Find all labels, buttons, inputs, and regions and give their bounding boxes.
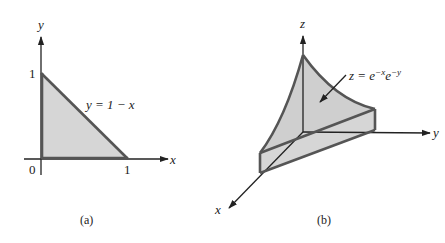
origin-label: 0 bbox=[29, 162, 36, 177]
caption-a: (a) bbox=[80, 213, 93, 227]
y-axis-label: y bbox=[36, 17, 44, 32]
x-axis-label: x bbox=[169, 152, 176, 167]
y-axis-label-3d: y bbox=[431, 125, 439, 140]
surface-label-exp1: −x bbox=[375, 67, 385, 77]
y-tick-1: 1 bbox=[29, 66, 36, 81]
caption-b: (b) bbox=[317, 213, 331, 227]
z-axis-label: z bbox=[299, 16, 305, 31]
panel-a: y x 1 0 1 y = 1 − x (a) bbox=[24, 17, 176, 227]
x-axis-label-3d: x bbox=[214, 202, 221, 217]
x-tick-1: 1 bbox=[124, 162, 131, 177]
surface-label: z = e−xe−y bbox=[348, 67, 401, 83]
panel-b: z y x z = e−xe−y (b) bbox=[214, 16, 439, 227]
surface-label-exp2: −y bbox=[391, 67, 401, 77]
svg-text:z = e−xe−y: z = e−xe−y bbox=[348, 67, 401, 83]
curve-label: y = 1 − x bbox=[84, 97, 135, 112]
figure: y x 1 0 1 y = 1 − x (a) z y x z = bbox=[0, 0, 445, 243]
surface-label-lhs: z = e bbox=[348, 68, 375, 83]
